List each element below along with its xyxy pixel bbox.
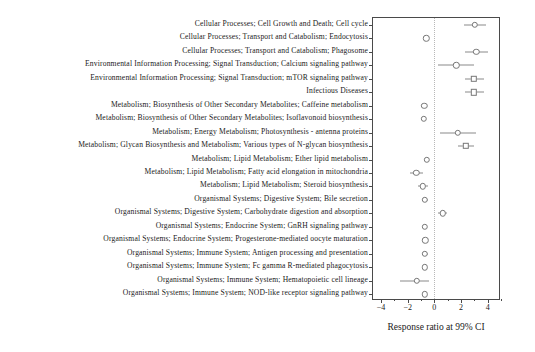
row-label: Organismal Systems; Immune System; Fc ga… xyxy=(0,262,368,270)
data-point-marker xyxy=(439,210,445,216)
y-axis-tick xyxy=(369,92,373,93)
y-axis-tick xyxy=(369,106,373,107)
x-axis-tick-label: −2 xyxy=(398,303,418,312)
row-label: Organismal Systems; Digestive System; Ca… xyxy=(0,208,368,216)
row-label: Metabolism; Lipid Metabolism; Ether lipi… xyxy=(0,155,368,163)
forest-plot-figure: Cellular Processes; Cell Growth and Deat… xyxy=(0,0,535,352)
row-label: Metabolism; Lipid Metabolism; Steroid bi… xyxy=(0,181,368,189)
data-point-marker xyxy=(454,129,460,135)
data-point-marker xyxy=(462,143,468,149)
data-point-marker xyxy=(420,116,426,122)
row-label: Infectious Diseases xyxy=(0,87,368,95)
data-point-marker xyxy=(421,102,427,108)
y-axis-tick xyxy=(369,146,373,147)
zero-reference-line xyxy=(434,18,435,299)
y-axis-tick xyxy=(369,200,373,201)
x-axis-minor-tick xyxy=(448,299,449,301)
x-axis-title: Response ratio at 99% CI xyxy=(372,322,500,332)
data-point-marker xyxy=(414,278,420,284)
x-axis-tick-label: 2 xyxy=(451,303,471,312)
y-axis-tick xyxy=(369,52,373,53)
row-label: Organismal Systems; Digestive System; Bi… xyxy=(0,195,368,203)
y-axis-tick xyxy=(369,65,373,66)
y-axis-tick xyxy=(369,240,373,241)
plot-area: −4−2024 xyxy=(372,17,500,300)
row-label: Metabolism; Glycan Biosynthesis and Meta… xyxy=(0,141,368,149)
x-axis-tick-label: 4 xyxy=(478,303,498,312)
x-axis-minor-tick xyxy=(474,299,475,301)
x-axis-minor-tick xyxy=(501,299,502,301)
data-point-marker xyxy=(420,183,426,189)
y-axis-tick xyxy=(369,160,373,161)
row-label: Cellular Processes; Transport and Catabo… xyxy=(0,33,368,41)
y-axis-tick xyxy=(369,173,373,174)
row-label: Metabolism; Lipid Metabolism; Fatty acid… xyxy=(0,168,368,176)
data-point-marker xyxy=(422,197,428,203)
row-label: Metabolism; Biosynthesis of Other Second… xyxy=(0,114,368,122)
data-point-marker xyxy=(423,35,429,41)
data-point-marker xyxy=(472,22,478,28)
data-point-marker xyxy=(453,62,459,68)
y-axis-tick xyxy=(369,38,373,39)
category-label-column: Cellular Processes; Cell Growth and Deat… xyxy=(0,17,368,300)
y-axis-tick xyxy=(369,79,373,80)
x-axis-minor-tick xyxy=(394,299,395,301)
row-label: Organismal Systems; Immune System; Antig… xyxy=(0,249,368,257)
y-axis-tick xyxy=(369,119,373,120)
y-axis-tick xyxy=(369,254,373,255)
data-point-marker xyxy=(422,224,428,230)
x-axis-tick-label: 0 xyxy=(424,303,444,312)
row-label: Environmental Information Processing; Si… xyxy=(0,60,368,68)
y-axis-tick xyxy=(369,186,373,187)
row-label: Organismal Systems; Endocrine System; Gn… xyxy=(0,222,368,230)
row-label: Metabolism; Energy Metabolism; Photosynt… xyxy=(0,128,368,136)
y-axis-tick xyxy=(369,25,373,26)
x-axis-tick-label: −4 xyxy=(371,303,391,312)
row-label: Organismal Systems; Immune System; Hemat… xyxy=(0,276,368,284)
data-point-marker xyxy=(422,237,428,243)
y-axis-tick xyxy=(369,267,373,268)
row-label: Cellular Processes; Transport and Catabo… xyxy=(0,47,368,55)
y-axis-tick xyxy=(369,133,373,134)
y-axis-tick xyxy=(369,294,373,295)
data-point-marker xyxy=(413,170,419,176)
data-point-marker xyxy=(470,75,476,81)
data-point-marker xyxy=(470,89,476,95)
row-label: Organismal Systems; Immune System; NOD-l… xyxy=(0,289,368,297)
y-axis-tick xyxy=(369,227,373,228)
data-point-marker xyxy=(473,48,479,54)
y-axis-tick xyxy=(369,281,373,282)
row-label: Metabolism; Biosynthesis of Other Second… xyxy=(0,101,368,109)
data-point-marker xyxy=(424,156,430,162)
row-label: Organismal Systems; Endocrine System; Pr… xyxy=(0,235,368,243)
x-axis-minor-tick xyxy=(421,299,422,301)
data-point-marker xyxy=(422,264,428,270)
data-point-marker xyxy=(422,251,428,257)
row-label: Environmental Information Processing; Si… xyxy=(0,74,368,82)
data-point-marker xyxy=(422,291,428,297)
y-axis-tick xyxy=(369,213,373,214)
row-label: Cellular Processes; Cell Growth and Deat… xyxy=(0,20,368,28)
